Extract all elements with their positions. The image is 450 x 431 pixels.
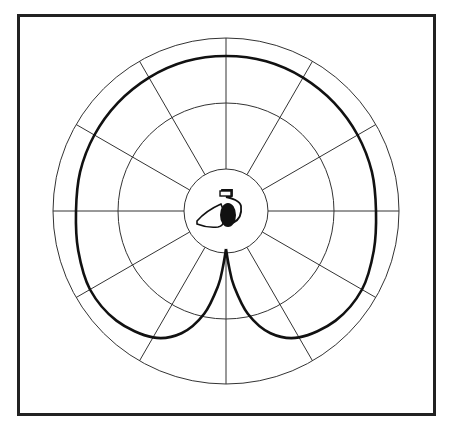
grid-spoke — [76, 232, 189, 298]
mic-grille — [220, 203, 236, 227]
polar-pattern-diagram — [0, 0, 450, 431]
grid-spoke — [262, 125, 375, 191]
hand-holding-microphone-icon — [197, 190, 241, 227]
grid-spoke — [76, 125, 189, 191]
grid-spoke — [140, 247, 206, 360]
grid-spoke — [247, 247, 313, 360]
grid-spoke — [262, 232, 375, 298]
mic-head — [220, 191, 231, 196]
